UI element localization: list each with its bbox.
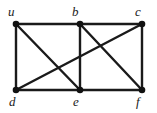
graph-vertex-d xyxy=(13,87,20,94)
graph-figure: ubcdef xyxy=(0,0,157,113)
graph-edge-u-e xyxy=(16,24,80,90)
vertex-label-f: f xyxy=(136,95,140,108)
graph-vertex-c xyxy=(139,21,146,28)
vertex-label-e: e xyxy=(73,95,79,108)
vertex-label-c: c xyxy=(135,5,141,18)
vertex-label-b: b xyxy=(72,5,79,18)
graph-vertex-f xyxy=(139,87,146,94)
graph-vertex-u xyxy=(13,21,20,28)
graph-vertex-b xyxy=(77,21,84,28)
vertex-label-d: d xyxy=(9,95,16,108)
graph-vertex-e xyxy=(77,87,84,94)
vertex-label-u: u xyxy=(8,5,15,18)
graph-edge-b-f xyxy=(80,24,142,90)
edges-group xyxy=(16,24,142,90)
